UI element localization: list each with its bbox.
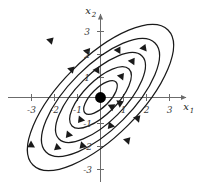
- flow-arrow-7: [67, 64, 77, 74]
- x-tick-label--1: -1: [73, 105, 82, 115]
- y-axis-label-base: x: [85, 5, 91, 16]
- flow-arrow-2: [128, 55, 138, 65]
- y-tick-label--3: -3: [83, 165, 92, 175]
- flow-arrow-1: [117, 70, 127, 80]
- y-tick-label-2: 2: [83, 50, 90, 60]
- y-tick-label-1: 1: [84, 73, 90, 83]
- y-tick-label--2: -2: [83, 142, 92, 152]
- x-axis-label-base: x: [183, 101, 189, 112]
- y-tick-label--1: -1: [83, 119, 92, 129]
- x-tick-label-1: 1: [121, 105, 127, 115]
- x-tick-label-3: 3: [167, 105, 173, 115]
- flow-arrow-14: [105, 121, 115, 131]
- y-axis-label-subscript: 2: [91, 11, 97, 19]
- y-tick-label-3: 3: [84, 27, 90, 37]
- x-tick-label--3: -3: [27, 105, 36, 115]
- x-tick-label-2: 2: [143, 105, 150, 115]
- phase-portrait-figure: -3 -2 -1 1 2 3 3 2 1 -1 -2 -3 x 1 x 2: [0, 0, 203, 189]
- flow-arrow-4: [139, 42, 149, 51]
- flow-arrow-3: [114, 44, 124, 54]
- y-axis-label: x 2: [85, 5, 97, 19]
- y-tick-labels: 3 2 1 -1 -2 -3: [83, 27, 92, 175]
- x-axis-label: x 1: [183, 101, 194, 115]
- flow-arrow-15: [123, 134, 133, 144]
- flow-arrow-12: [51, 143, 61, 153]
- x-axis-label-subscript: 1: [190, 107, 194, 115]
- phase-plane-plot: -3 -2 -1 1 2 3 3 2 1 -1 -2 -3 x 1 x 2: [0, 0, 203, 189]
- equilibrium-center-dot: [95, 92, 106, 103]
- flow-arrow-10: [63, 130, 73, 140]
- x-tick-label--2: -2: [50, 105, 59, 115]
- flow-arrow-8: [46, 35, 56, 45]
